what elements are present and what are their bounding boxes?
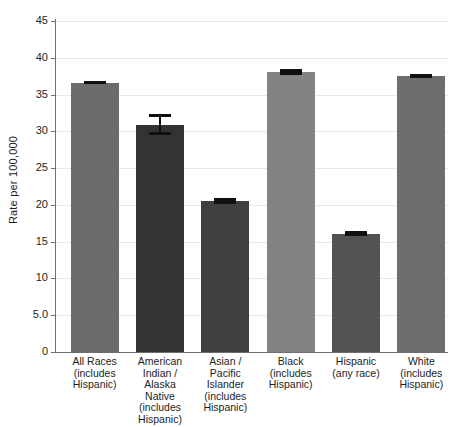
y-tick-mark — [51, 352, 55, 353]
x-tick-label: White(includesHispanic) — [389, 356, 454, 391]
bar — [136, 125, 184, 352]
y-tick-label: 0 — [8, 346, 48, 357]
error-bar — [84, 81, 106, 84]
x-tick-label-line: White — [389, 356, 454, 368]
bar — [201, 201, 249, 352]
error-bar-cap-bottom — [84, 81, 106, 84]
y-tick-mark — [51, 21, 55, 22]
gridline — [56, 58, 448, 59]
y-tick-mark — [51, 58, 55, 59]
x-tick-label-line: Islander — [193, 379, 258, 391]
x-tick-label: All Races(includesHispanic) — [62, 356, 127, 391]
y-tick-label: 30 — [8, 125, 48, 136]
x-tick-label-line: (any race) — [323, 368, 388, 380]
x-tick-label-line: All Races — [62, 356, 127, 368]
error-bar-cap-bottom — [214, 201, 236, 204]
y-tick-mark — [51, 168, 55, 169]
y-tick-mark — [51, 242, 55, 243]
error-bar — [280, 69, 302, 75]
error-bar-cap-top — [149, 114, 171, 117]
bar — [71, 83, 119, 352]
x-tick-label-line: Hispanic) — [127, 414, 192, 426]
y-tick-mark — [51, 131, 55, 132]
y-tick-label: 10 — [8, 272, 48, 283]
y-tick-mark — [51, 205, 55, 206]
x-axis-labels: All Races(includesHispanic)AmericanIndia… — [56, 356, 448, 427]
error-bar — [149, 114, 171, 135]
x-tick-label-line: Hispanic) — [62, 379, 127, 391]
error-bar-cap-bottom — [345, 233, 367, 236]
y-tick-label: 25 — [8, 162, 48, 173]
x-tick-label: Black(includesHispanic) — [258, 356, 323, 391]
x-tick-label-line: Hispanic) — [258, 379, 323, 391]
error-bar-cap-bottom — [410, 75, 432, 78]
y-tick-label: 40 — [8, 52, 48, 63]
y-tick-label: 20 — [8, 199, 48, 210]
gridline — [56, 21, 448, 22]
y-tick-label: 45 — [8, 15, 48, 26]
y-tick-mark — [51, 278, 55, 279]
error-bar — [345, 231, 367, 235]
x-tick-label: Hispanic(any race) — [323, 356, 388, 379]
y-tick-label: 5.0 — [8, 309, 48, 320]
bar-chart: Rate per 100,000 45403530252015105.00 Al… — [0, 0, 454, 427]
y-tick-label: 35 — [8, 89, 48, 100]
x-tick-label: Asian /PacificIslander(includesHispanic) — [193, 356, 258, 414]
bar — [397, 76, 445, 352]
bar — [332, 234, 380, 352]
y-tick-mark — [51, 315, 55, 316]
y-tick-label: 15 — [8, 236, 48, 247]
y-axis-title-text: Rate per 100,000 — [7, 136, 19, 224]
x-tick-label-line: Asian / — [193, 356, 258, 368]
x-axis-line — [55, 352, 448, 353]
x-tick-label-line: American — [127, 356, 192, 368]
x-tick-label-line: Black — [258, 356, 323, 368]
error-bar — [214, 198, 236, 204]
bar — [267, 72, 315, 352]
x-tick-label-line: Alaska — [127, 379, 192, 391]
x-tick-label-line: Hispanic) — [193, 402, 258, 414]
x-tick-label-line: Hispanic — [323, 356, 388, 368]
x-tick-label: AmericanIndian /AlaskaNative(includesHis… — [127, 356, 192, 425]
error-bar — [410, 74, 432, 78]
x-tick-label-line: (includes — [127, 402, 192, 414]
y-tick-mark — [51, 95, 55, 96]
plot-area — [56, 21, 448, 352]
error-bar-cap-bottom — [149, 132, 171, 135]
x-tick-label-line: Hispanic) — [389, 379, 454, 391]
error-bar-cap-bottom — [280, 72, 302, 75]
